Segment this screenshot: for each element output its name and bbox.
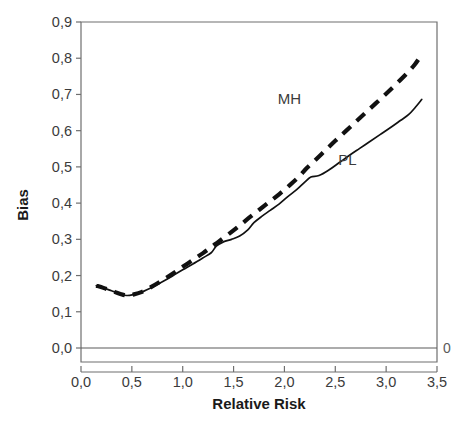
series-annotation-pl: PL [338,151,356,168]
y-tick-label: 0,7 [52,86,72,102]
y-tick-label: 0,8 [52,50,72,66]
x-tick-label: 0,5 [122,374,142,390]
chart-figure: 0,00,10,20,30,40,50,60,70,80,9 0,00,51,0… [0,0,475,428]
x-tick-label: 3,5 [427,374,447,390]
bias-vs-relative-risk-chart: 0,00,10,20,30,40,50,60,70,80,9 0,00,51,0… [0,0,475,428]
x-tick-label: 2,5 [325,374,345,390]
y-tick-label: 0,9 [52,14,72,30]
y-tick-label: 0,3 [52,231,72,247]
x-axis-title: Relative Risk [212,395,306,412]
y-axis-title: Bias [14,189,31,221]
y-tick-label: 0,4 [52,195,72,211]
right-edge-zero-label: 0 [443,340,451,356]
series-annotation-mh: MH [278,90,301,107]
x-tick-label: 0,0 [71,374,91,390]
y-tick-label: 0,5 [52,159,72,175]
y-tick-label: 0,2 [52,268,72,284]
y-tick-label: 0,0 [52,340,72,356]
x-tick-label: 2,0 [274,374,294,390]
x-tick-label: 1,0 [173,374,193,390]
y-tick-label: 0,1 [52,304,72,320]
x-tick-label: 3,0 [376,374,396,390]
x-tick-label: 1,5 [223,374,243,390]
y-tick-label: 0,6 [52,123,72,139]
